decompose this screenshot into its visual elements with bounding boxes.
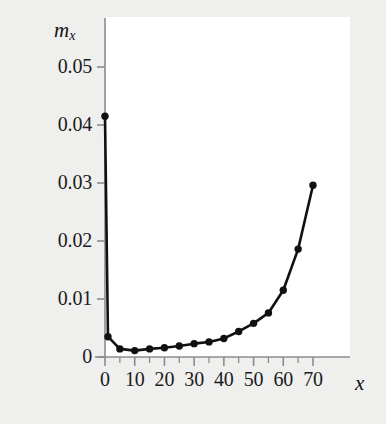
data-point-marker [101, 113, 108, 120]
data-point-marker [190, 340, 197, 347]
x-axis-tick-label: 70 [291, 369, 335, 389]
data-point-marker [235, 328, 242, 335]
y-axis-tick-label: 0.04 [0, 114, 92, 134]
data-point-marker [116, 345, 123, 352]
data-point-marker [146, 345, 153, 352]
y-axis-tick-label: 0.01 [0, 288, 92, 308]
data-point-marker [205, 338, 212, 345]
data-point-marker [250, 320, 257, 327]
data-point-marker [280, 287, 287, 294]
data-series-markers [101, 113, 316, 355]
data-point-marker [104, 333, 111, 340]
y-axis-tick-label: 0 [0, 346, 92, 366]
data-point-marker [309, 182, 316, 189]
data-point-marker [294, 245, 301, 252]
data-point-marker [265, 309, 272, 316]
y-axis-ticks [97, 67, 105, 357]
data-point-marker [176, 342, 183, 349]
y-axis-tick-label: 0.03 [0, 172, 92, 192]
data-point-marker [131, 347, 138, 354]
y-axis-tick-label: 0.02 [0, 230, 92, 250]
data-series-line [105, 116, 313, 350]
data-point-marker [220, 335, 227, 342]
y-axis-tick-label: 0.05 [0, 56, 92, 76]
x-axis-minor-ticks [120, 357, 298, 363]
chart-figure: mx x 00.010.020.030.040.05 0102030405060… [0, 0, 386, 424]
data-point-marker [161, 344, 168, 351]
